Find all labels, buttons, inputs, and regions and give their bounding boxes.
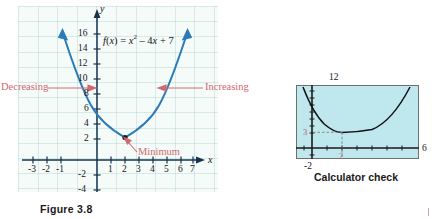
y-tick-label: 6 bbox=[84, 104, 89, 114]
y-axis-label: y bbox=[100, 4, 104, 14]
x-tick-label: 2 bbox=[122, 165, 127, 175]
calc-parabola-curve bbox=[303, 87, 410, 132]
y-tick-label: 10 bbox=[78, 74, 88, 84]
parabola-figure: -3 -2 -1 1 2 3 4 5 6 7 16 14 12 10 8 6 4… bbox=[0, 0, 250, 219]
y-tick-label: -4 bbox=[78, 185, 86, 195]
calc-ymax-label: 12 bbox=[329, 72, 339, 82]
x-tick-label: -1 bbox=[56, 165, 64, 175]
minimum-label: Minimum bbox=[138, 147, 180, 158]
calc-trace-y-label: 3 bbox=[303, 127, 307, 137]
x-tick-label: 6 bbox=[178, 165, 183, 175]
x-tick-label: 1 bbox=[108, 165, 113, 175]
x-tick-label: 4 bbox=[150, 165, 155, 175]
y-tick-label: 4 bbox=[84, 119, 89, 129]
y-tick-label: 12 bbox=[78, 59, 88, 69]
x-tick-label: 3 bbox=[136, 165, 141, 175]
decreasing-label: Decreasing bbox=[1, 82, 48, 93]
figure-page: -3 -2 -1 1 2 3 4 5 6 7 16 14 12 10 8 6 4… bbox=[0, 0, 432, 219]
calc-trace-guides bbox=[313, 132, 342, 157]
figure-caption: Figure 3.8 bbox=[40, 203, 93, 215]
y-tick-label: 14 bbox=[78, 44, 88, 54]
y-tick-label: 8 bbox=[84, 89, 89, 99]
calculator-caption: Calculator check bbox=[314, 171, 398, 183]
parabola-plot-svg bbox=[0, 0, 250, 219]
page-edge-mark bbox=[428, 208, 429, 216]
increasing-label: Increasing bbox=[205, 82, 249, 93]
y-tick-label: -2 bbox=[78, 170, 86, 180]
x-tick-label: -3 bbox=[28, 165, 36, 175]
calc-trace-x-label: 2 bbox=[339, 151, 343, 161]
y-tick-label: 16 bbox=[78, 29, 88, 39]
calc-xmin-label: -2 bbox=[304, 161, 312, 171]
x-tick-label: -2 bbox=[42, 165, 50, 175]
calc-xmax-label: 6 bbox=[422, 143, 427, 153]
calculator-plot-svg bbox=[286, 58, 432, 219]
function-equation-label: f(x) = x2 – 4x + 7 bbox=[103, 34, 174, 46]
x-axis-label: x bbox=[208, 155, 212, 165]
x-tick-label: 7 bbox=[190, 165, 195, 175]
calculator-check-figure: 12 -2 6 3 2 Calculator check bbox=[286, 58, 432, 219]
y-tick-label: 2 bbox=[84, 134, 89, 144]
x-tick-label: 5 bbox=[164, 165, 169, 175]
annotation-leaders bbox=[47, 85, 203, 152]
